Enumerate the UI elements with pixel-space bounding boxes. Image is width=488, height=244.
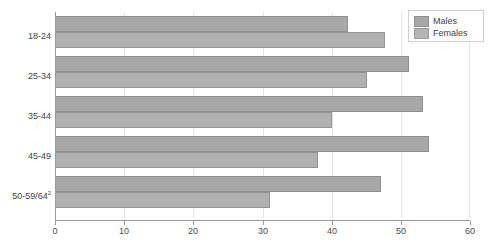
x-tick-mark-20 — [193, 221, 194, 225]
legend-item-males[interactable]: Males — [414, 15, 457, 27]
y-category-label-18-24: 18-24 — [0, 31, 51, 42]
x-tick-label-50: 50 — [396, 226, 406, 237]
x-tick-mark-0 — [55, 221, 56, 225]
x-tick-label-60: 60 — [465, 226, 475, 237]
bar-males-45-49[interactable] — [55, 136, 429, 152]
x-tick-label-10: 10 — [119, 226, 129, 237]
bar-females-45-49[interactable] — [55, 152, 318, 168]
y-category-label-35-44: 35-44 — [0, 111, 51, 122]
y-category-label-50-59-64: 50-59/642 — [0, 191, 51, 202]
y-category-label-25-34: 25-34 — [0, 71, 51, 82]
legend-label-males: Males — [433, 16, 457, 27]
x-tick-mark-60 — [470, 221, 471, 225]
x-tick-label-0: 0 — [52, 226, 57, 237]
legend-swatch-males — [414, 16, 429, 27]
chart-top-marker — [56, 0, 66, 8]
legend-item-females[interactable]: Females — [414, 27, 468, 39]
bar-females-50-59-64[interactable] — [55, 192, 270, 208]
x-tick-mark-30 — [263, 221, 264, 225]
bar-females-35-44[interactable] — [55, 112, 332, 128]
legend-label-females: Females — [433, 28, 468, 39]
bar-females-18-24[interactable] — [55, 32, 385, 48]
x-tick-label-40: 40 — [327, 226, 337, 237]
x-tick-mark-40 — [332, 221, 333, 225]
x-tick-mark-50 — [401, 221, 402, 225]
legend-swatch-females — [414, 28, 429, 39]
y-axis-line — [55, 12, 56, 221]
bar-chart: 0 10 20 30 40 50 60 18-24 25-34 35-44 45… — [0, 0, 488, 244]
bar-males-35-44[interactable] — [55, 96, 423, 112]
plot-area — [55, 12, 470, 218]
bar-males-18-24[interactable] — [55, 16, 348, 32]
y-category-label-45-49: 45-49 — [0, 151, 51, 162]
bar-females-25-34[interactable] — [55, 72, 367, 88]
legend: Males Females — [408, 10, 484, 42]
y-category-label-50-59-64-text: 50-59/64 — [12, 191, 48, 201]
x-tick-label-20: 20 — [188, 226, 198, 237]
x-tick-mark-10 — [124, 221, 125, 225]
bar-males-50-59-64[interactable] — [55, 176, 381, 192]
x-tick-label-30: 30 — [258, 226, 268, 237]
y-category-footnote-marker: 2 — [48, 190, 51, 196]
gridline-50 — [401, 12, 402, 218]
gridline-60 — [469, 12, 470, 218]
bar-males-25-34[interactable] — [55, 56, 409, 72]
